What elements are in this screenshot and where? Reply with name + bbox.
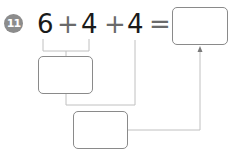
term-6: 6 <box>37 9 54 39</box>
equals-sign: = <box>149 9 171 39</box>
second-sum-box[interactable] <box>73 111 128 149</box>
problem-number-badge: 11 <box>4 14 23 33</box>
term-4-second: 4 <box>127 9 144 39</box>
arrow-up-icon <box>198 46 203 52</box>
term-4-first: 4 <box>81 9 98 39</box>
plus-operator: + <box>104 9 126 39</box>
result-box[interactable] <box>172 7 228 45</box>
partial-sum-box[interactable] <box>38 56 93 94</box>
plus-operator: + <box>57 9 79 39</box>
